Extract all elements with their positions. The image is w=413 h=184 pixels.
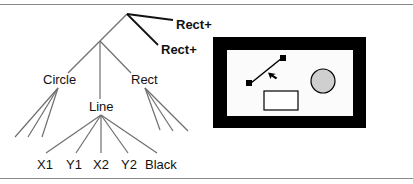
node-line: Line	[89, 99, 114, 114]
line-handle-start[interactable]	[246, 80, 252, 86]
circle-shape[interactable]	[311, 69, 335, 93]
leaf-y2: Y2	[121, 157, 137, 172]
leaf-x2: X2	[93, 157, 109, 172]
leaf-y1: Y1	[66, 157, 82, 172]
line-handle-end[interactable]	[280, 55, 286, 61]
tree-edges	[15, 14, 188, 153]
diagram: Rect+ Rect+ Circle Rect Line X1 Y1 X2 Y2…	[0, 0, 413, 184]
annotation-rect-plus-2: Rect+	[161, 42, 197, 57]
leaf-x1: X1	[37, 157, 53, 172]
canvas-preview	[213, 37, 366, 128]
node-circle: Circle	[43, 72, 76, 87]
annotation-edges	[127, 14, 173, 45]
node-rect: Rect	[131, 72, 158, 87]
rect-shape[interactable]	[264, 91, 298, 110]
annotation-rect-plus-1: Rect+	[176, 17, 212, 32]
leaf-black: Black	[145, 157, 177, 172]
